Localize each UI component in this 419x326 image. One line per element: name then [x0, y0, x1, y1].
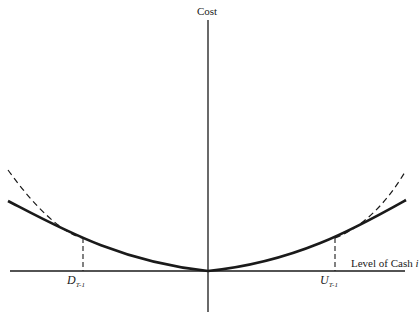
x-axis-label-text: Level of Cash [351, 257, 413, 269]
upper-bound-label: UT-1 [320, 273, 338, 289]
upper-bound-symbol: U [320, 273, 329, 287]
dashed-cost-curve [8, 170, 405, 238]
x-axis-label: Level of Cash i [351, 257, 419, 269]
lower-bound-label: DT-1 [67, 273, 85, 289]
lower-bound-symbol: D [67, 273, 76, 287]
upper-bound-subscript: T-1 [329, 281, 338, 289]
x-axis-variable: i [415, 257, 418, 269]
solid-cost-curve [8, 200, 406, 271]
lower-bound-subscript: T-1 [76, 281, 85, 289]
y-axis-label: Cost [197, 5, 217, 17]
